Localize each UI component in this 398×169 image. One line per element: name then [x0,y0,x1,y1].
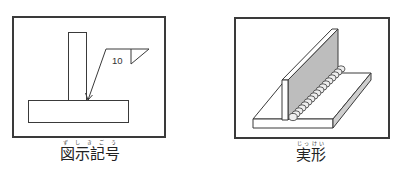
fillet-weld-symbol-icon [131,49,149,64]
vertical-plate-edge [282,80,288,120]
base-plate-section [29,101,129,123]
symbol-caption-reading: ずしきごう [60,139,120,145]
vertical-plate-section [69,33,87,101]
actual-caption: 実形じっけい [286,140,336,164]
weld-size-label: 10 [112,55,123,66]
symbol-drawing [29,33,150,123]
actual-caption-reading: じっけい [296,140,326,146]
actual-drawing [253,29,371,128]
symbol-caption: 図示記号ずしきごう [60,139,120,163]
symbol-caption-text: 図示記号 [60,145,120,163]
actual-caption-text: 実形 [296,146,326,164]
